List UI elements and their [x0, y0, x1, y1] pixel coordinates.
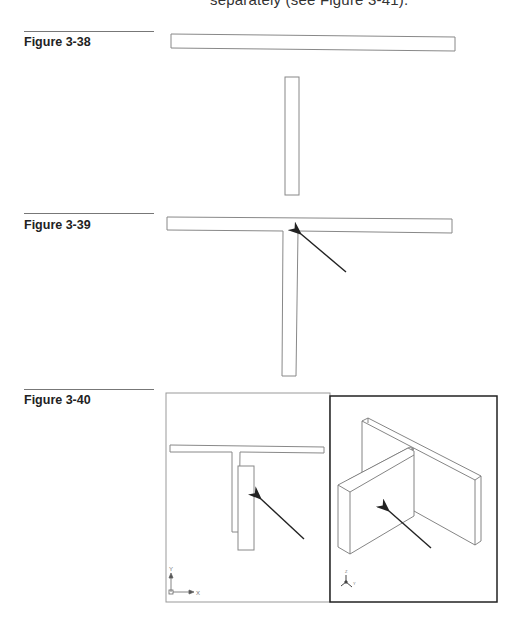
svg-text:Y: Y: [353, 581, 356, 586]
vertical-bar: [285, 77, 299, 195]
horizontal-bar: [171, 34, 455, 51]
figure-drawings: Y X Z Y: [0, 0, 520, 626]
figure-3-40-drawing: Y X Z Y: [166, 393, 497, 602]
svg-text:Y: Y: [169, 566, 173, 572]
offset-panel-plan: [238, 466, 254, 550]
figure-3-38-drawing: [171, 34, 455, 195]
arrow: [301, 234, 346, 272]
figure-3-39-drawing: [167, 217, 452, 376]
svg-text:X: X: [196, 590, 200, 596]
